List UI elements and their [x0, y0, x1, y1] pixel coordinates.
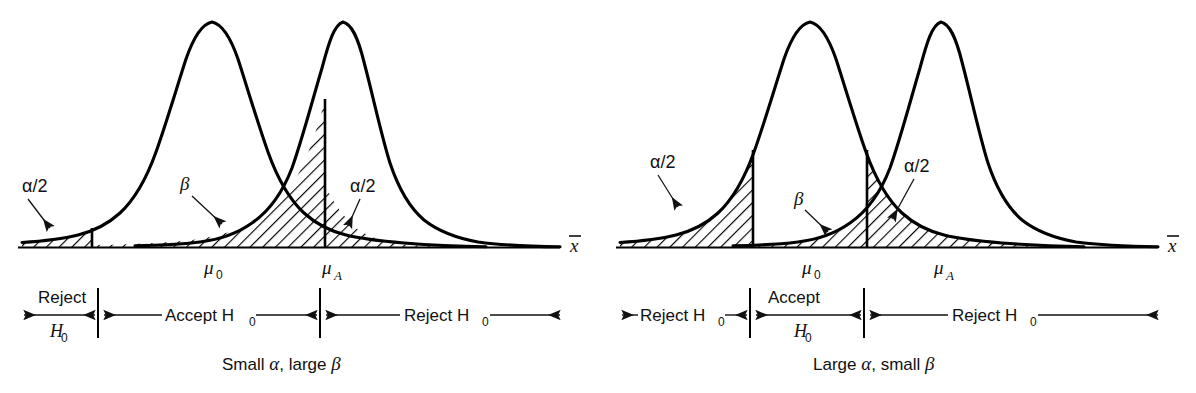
svg-text:0: 0: [718, 315, 725, 329]
band-reject-right: Reject H 0: [870, 306, 1158, 329]
x-bar-axis-label: x: [1167, 235, 1179, 256]
svg-text:0: 0: [61, 331, 68, 345]
svg-text:μ: μ: [933, 257, 944, 278]
svg-text:Reject H: Reject H: [952, 306, 1017, 325]
svg-text:μ: μ: [801, 257, 812, 278]
right-panel-svg: α/2 β α/2 μ 0 μ A x: [598, 0, 1196, 393]
svg-text:0: 0: [482, 315, 489, 329]
beta-label: β: [793, 188, 804, 209]
mu-alt-label: μ A: [321, 257, 342, 283]
alpha-lower-leader-line: [658, 175, 678, 207]
alpha-lower-label: α/2: [650, 152, 675, 172]
alpha-lower-leader-line: [28, 199, 50, 228]
band-reject-left: Reject H 0: [24, 288, 95, 345]
alternative-distribution-curve: [135, 22, 560, 247]
band-accept: Accept H 0: [104, 306, 317, 329]
mu-alt-label: μ A: [933, 257, 954, 283]
svg-text:0: 0: [805, 331, 812, 345]
alpha-upper-label: α/2: [904, 156, 929, 176]
svg-text:0: 0: [1030, 315, 1037, 329]
svg-text:0: 0: [249, 315, 256, 329]
svg-text:x: x: [569, 235, 579, 256]
alpha-upper-leader-line: [348, 199, 360, 226]
alpha-lower-label: α/2: [22, 176, 47, 196]
beta-label: β: [179, 173, 190, 194]
figure-root: α/2 β α/2 μ 0 μ A x: [0, 0, 1196, 393]
svg-text:Large α, small β: Large α, small β: [813, 353, 935, 374]
left-panel-svg: α/2 β α/2 μ 0 μ A x: [0, 0, 598, 393]
mu-null-label: μ 0: [801, 257, 821, 282]
svg-text:Accept: Accept: [768, 288, 820, 307]
panel-caption: Large α, small β: [813, 353, 935, 374]
svg-text:0: 0: [814, 268, 821, 282]
svg-text:Reject: Reject: [38, 288, 86, 307]
panel-caption: Small α, large β: [222, 353, 341, 374]
svg-text:x: x: [1167, 235, 1177, 256]
beta-leader-line: [805, 210, 828, 232]
band-reject-right: Reject H 0: [326, 306, 560, 329]
alpha-upper-label: α/2: [350, 176, 375, 196]
svg-text:A: A: [333, 268, 342, 283]
svg-text:Reject H: Reject H: [404, 306, 469, 325]
svg-text:Small α, large β: Small α, large β: [222, 353, 341, 374]
band-accept: Accept H 0: [756, 288, 861, 345]
svg-text:Accept H: Accept H: [165, 306, 234, 325]
svg-text:μ: μ: [203, 257, 214, 278]
svg-text:Reject H: Reject H: [640, 306, 705, 325]
alternative-distribution-curve: [733, 22, 1158, 247]
x-bar-axis-label: x: [569, 235, 581, 256]
band-reject-left: Reject H 0: [622, 306, 747, 329]
svg-text:A: A: [945, 268, 954, 283]
svg-text:μ: μ: [321, 257, 332, 278]
beta-region: [60, 100, 325, 247]
beta-leader-line: [192, 196, 222, 224]
panel-large-alpha-small-beta: α/2 β α/2 μ 0 μ A x: [598, 0, 1196, 393]
alpha-upper-region-right: [325, 186, 468, 247]
svg-text:0: 0: [216, 268, 223, 282]
alpha-upper-region-right: [867, 152, 1084, 247]
panel-small-alpha-large-beta: α/2 β α/2 μ 0 μ A x: [0, 0, 598, 393]
mu-null-label: μ 0: [203, 257, 223, 282]
